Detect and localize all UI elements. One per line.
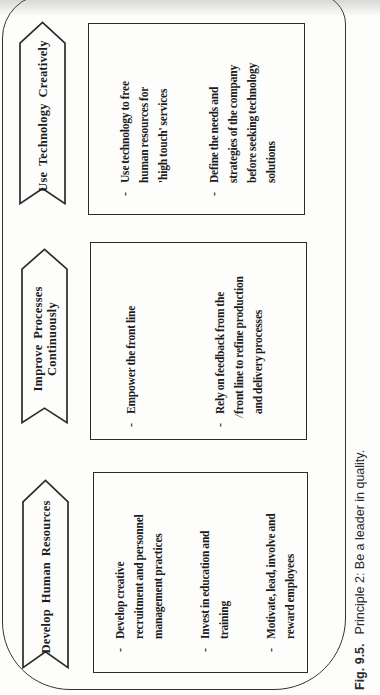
bullet-dash: - bbox=[116, 183, 135, 196]
bullet-text: Motivate, lead, involve and reward emplo… bbox=[262, 514, 300, 639]
bullet-dash: - bbox=[262, 639, 281, 652]
bullet-dash: - bbox=[111, 639, 130, 652]
scanned-page: Develop Human Resources - Develop creati… bbox=[0, 0, 380, 695]
bullet-box-use-technology: - Use technology to free human resources… bbox=[88, 23, 305, 215]
banner-use-technology-creatively: Use Technology Creatively bbox=[19, 21, 66, 205]
bullet-text: Use technology to free human resources f… bbox=[116, 81, 173, 183]
banner-label: Improve Processes Continuously bbox=[21, 248, 68, 424]
bullet-dash: - bbox=[211, 414, 230, 427]
figure-canvas: Develop Human Resources - Develop creati… bbox=[0, 0, 380, 695]
bullet-text: Define the needs and strategies of the c… bbox=[205, 63, 281, 183]
bullet-text: Develop creative recruitment and personn… bbox=[111, 514, 168, 639]
figure-number: Fig. 9.5. bbox=[353, 643, 367, 690]
bullet-item: - Invest in education and training bbox=[196, 477, 234, 652]
bullet-dash: - bbox=[122, 414, 141, 427]
bullet-dash: - bbox=[196, 639, 215, 652]
bullet-item: - Develop creative recruitment and perso… bbox=[111, 477, 168, 652]
bullet-item: - Define the needs and strategies of the… bbox=[205, 28, 281, 196]
column-use-technology-creatively: Use Technology Creatively - Use technolo… bbox=[0, 23, 380, 215]
bullet-box-develop-human-resources: - Develop creative recruitment and perso… bbox=[93, 472, 308, 673]
figure-caption: Fig. 9.5.Principle 2: Be a leader in qua… bbox=[353, 350, 367, 690]
column-develop-human-resources: Develop Human Resources - Develop creati… bbox=[0, 472, 380, 673]
bullet-box-improve-processes: - Empower the front line - Rely on feedb… bbox=[90, 242, 307, 440]
column-improve-processes-continuously: Improve Processes Continuously - Empower… bbox=[0, 242, 380, 440]
banner-label: Use Technology Creatively bbox=[19, 21, 66, 205]
bullet-item: - Motivate, lead, involve and reward emp… bbox=[262, 477, 300, 652]
bullet-text: Invest in education and training bbox=[196, 531, 234, 639]
banner-improve-processes-continuously: Improve Processes Continuously bbox=[21, 248, 68, 424]
caption-text: Principle 2: Be a leader in quality. bbox=[353, 450, 367, 635]
pen-mark-artifact: / bbox=[230, 414, 249, 419]
bullet-dash: - bbox=[205, 183, 224, 196]
banner-develop-human-resources: Develop Human Resources bbox=[22, 479, 69, 669]
bullet-item: - Rely on feedback from the front line t… bbox=[211, 247, 268, 427]
bullet-text: Rely on feedback from the front line to … bbox=[211, 276, 268, 414]
bullet-item: - Use technology to free human resources… bbox=[116, 28, 173, 196]
bullet-text: Empower the front line bbox=[122, 306, 141, 414]
banner-label: Develop Human Resources bbox=[22, 479, 69, 669]
bullet-item: - Empower the front line bbox=[122, 247, 141, 427]
